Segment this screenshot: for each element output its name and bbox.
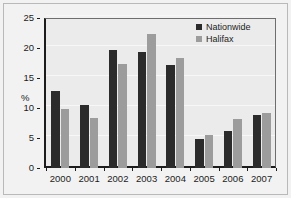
bar	[253, 115, 262, 168]
chart-legend: NationwideHalifax	[196, 22, 251, 44]
bar	[61, 109, 70, 168]
x-tick-mark	[161, 168, 162, 171]
bar	[224, 131, 233, 168]
x-tick-mark	[75, 168, 76, 171]
bar	[176, 58, 185, 168]
bar	[118, 64, 127, 168]
bar-group	[138, 18, 156, 168]
bar	[109, 50, 118, 168]
chart-figure: 0510152025 % 200020012002200320042005200…	[0, 0, 291, 198]
legend-entry[interactable]: Nationwide	[196, 22, 251, 32]
legend-swatch-icon	[196, 24, 202, 30]
y-axis-title: %	[21, 92, 29, 103]
legend-entry[interactable]: Halifax	[196, 34, 251, 44]
bar	[90, 118, 99, 168]
y-tick-mark	[37, 18, 40, 19]
x-tick-mark	[132, 168, 133, 171]
x-tick-label: 2007	[251, 173, 272, 184]
x-tick-label: 2000	[50, 173, 71, 184]
x-tick-mark	[46, 168, 47, 171]
y-tick-label: 5	[29, 133, 34, 143]
legend-label: Halifax	[206, 34, 234, 44]
x-tick-mark	[104, 168, 105, 171]
bar	[51, 91, 60, 168]
y-tick-label: 0	[29, 163, 34, 173]
y-tick-mark	[37, 138, 40, 139]
y-tick-label: 15	[23, 73, 34, 83]
gridline	[46, 15, 275, 16]
x-tick-mark	[219, 168, 220, 171]
bar	[233, 119, 242, 168]
y-tick-mark	[37, 78, 40, 79]
y-tick-mark	[37, 168, 40, 169]
bar-group	[166, 18, 184, 168]
x-tick-mark	[276, 168, 277, 171]
bar	[166, 65, 175, 168]
bar-group	[253, 18, 271, 168]
bar	[195, 139, 204, 168]
y-tick-mark	[37, 108, 40, 109]
x-tick-label: 2004	[165, 173, 186, 184]
bar	[147, 34, 156, 168]
y-tick-mark	[37, 48, 40, 49]
bar-group	[51, 18, 69, 168]
x-tick-mark	[247, 168, 248, 171]
bar	[138, 52, 147, 168]
x-tick-label: 2006	[222, 173, 243, 184]
bar-group	[80, 18, 98, 168]
bar-group	[109, 18, 127, 168]
legend-swatch-icon	[196, 36, 202, 42]
bar	[80, 105, 89, 168]
x-tick-label: 2002	[107, 173, 128, 184]
y-tick-label: 10	[23, 103, 34, 113]
bar	[205, 135, 214, 168]
y-tick-label: 20	[23, 43, 34, 53]
bar	[262, 113, 271, 168]
x-tick-label: 2005	[194, 173, 215, 184]
x-tick-mark	[190, 168, 191, 171]
x-tick-label: 2001	[79, 173, 100, 184]
y-tick-label: 25	[23, 13, 34, 23]
y-axis: 0510152025	[0, 10, 40, 176]
legend-label: Nationwide	[206, 22, 251, 32]
x-tick-label: 2003	[136, 173, 157, 184]
x-axis: 20002001200220032004200520062007	[46, 168, 276, 192]
